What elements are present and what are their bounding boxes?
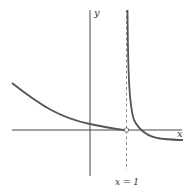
right-curve	[128, 10, 184, 140]
y-axis-label: y	[93, 7, 100, 18]
asymptote-label: x = 1	[115, 177, 139, 187]
x-axis-label: x	[177, 128, 183, 139]
left-curve	[12, 83, 124, 130]
graph-canvas: y x x = 1	[0, 0, 193, 193]
open-point	[124, 128, 128, 132]
